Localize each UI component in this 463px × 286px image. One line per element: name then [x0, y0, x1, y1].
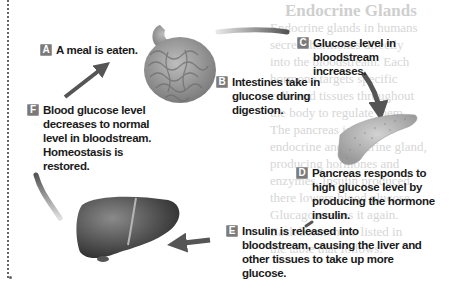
- step-f-text: Blood glucose level decreases to normal …: [43, 103, 155, 173]
- liver-illustration: [76, 197, 179, 262]
- step-c-text: Glucose level in bloodstream increases.: [313, 36, 423, 78]
- badge-a: A: [40, 44, 52, 56]
- arrow-liver-to-homeostasis: [36, 175, 60, 218]
- step-e: EInsulin is released into bloodstream, c…: [226, 224, 426, 280]
- arrow-bloodstream-to-pancreas: [363, 73, 380, 113]
- step-d-text: Pancreas responds to high glucose level …: [312, 166, 450, 222]
- step-e-text: Insulin is released into bloodstream, ca…: [242, 224, 422, 280]
- step-a-text: A meal is eaten.: [56, 43, 138, 57]
- step-b: BIntestines take in glucose during diges…: [216, 75, 356, 117]
- arrow-intestines-to-bloodstream: [218, 30, 287, 32]
- arrow-insulin-to-liver: [175, 240, 210, 244]
- pancreas-illustration: [338, 114, 417, 164]
- intestines-illustration: [144, 25, 216, 103]
- badge-e: E: [226, 225, 238, 237]
- step-b-text: Intestines take in glucose during digest…: [232, 75, 354, 117]
- step-c: CGlucose level in bloodstream increases.: [297, 36, 437, 78]
- badge-b: B: [216, 76, 228, 88]
- arrow-homeostasis-to-meal: [65, 66, 105, 97]
- step-a: AA meal is eaten.: [40, 43, 138, 57]
- step-d: DPancreas responds to high glucose level…: [296, 166, 456, 222]
- badge-c: C: [297, 37, 309, 49]
- step-f: FBlood glucose level decreases to normal…: [27, 103, 157, 173]
- badge-d: D: [296, 167, 308, 179]
- badge-f: F: [27, 104, 39, 116]
